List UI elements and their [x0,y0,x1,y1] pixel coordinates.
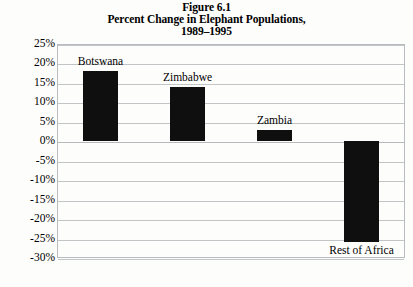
y-axis-tick-label: -20% [3,213,55,225]
bar-zimbabwe [170,87,205,141]
y-axis-tick-label: 25% [3,38,55,50]
y-axis-tick-label: 10% [3,97,55,109]
bar-zambia [257,130,292,142]
bar-label-botswana: Botswana [41,56,161,68]
y-axis-tick-label: -30% [3,252,55,264]
y-axis-tick-label: -25% [3,233,55,245]
title-line-2: Percent Change in Elephant Populations, [0,13,413,25]
y-axis-tick-label: 0% [3,136,55,148]
figure-container: Figure 6.1 Percent Change in Elephant Po… [0,0,413,287]
y-axis-tick-label: -10% [3,174,55,186]
bar-label-rest-of-africa: Rest of Africa [302,245,413,257]
title-line-1: Figure 6.1 [0,1,413,13]
y-axis-tick-label: 15% [3,77,55,89]
bar-label-zambia: Zambia [215,115,335,127]
title-line-3: 1989–1995 [0,25,413,37]
gridline--30% [58,259,404,260]
chart-title: Figure 6.1 Percent Change in Elephant Po… [0,1,413,38]
y-axis-labels: 25%20%15%10%5%0%-5%-10%-15%-20%-25%-30% [0,44,55,258]
bar-label-zimbabwe: Zimbabwe [128,72,248,84]
bars-layer: BotswanaZimbabweZambiaRest of Africa [57,44,405,258]
bar-rest-of-africa [344,141,379,242]
y-axis-tick-label: -15% [3,194,55,206]
y-axis-tick-label: 5% [3,116,55,128]
y-axis-tick-label: -5% [3,155,55,167]
bar-botswana [83,71,118,141]
